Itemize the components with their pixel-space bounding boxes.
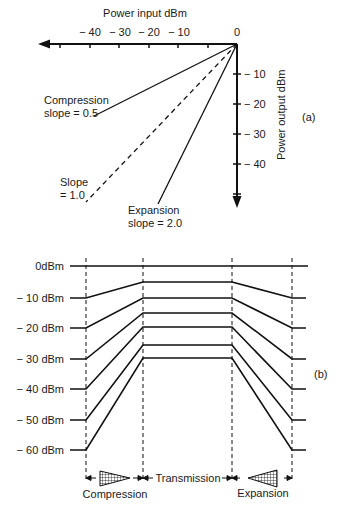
compression-stage-label: Compression	[83, 488, 148, 500]
compression-slope-label: slope = 0.5	[44, 107, 98, 119]
expansion-wedge-icon	[248, 470, 277, 487]
expansion-stage-label: Expansion	[237, 487, 288, 499]
x-axis-title: Power input dBm	[103, 7, 187, 19]
unity-slope-value: = 1.0	[60, 189, 85, 201]
unity-slope-line	[86, 44, 237, 202]
transmission-label: Transmission	[156, 472, 221, 484]
level-label: 0dBm	[35, 260, 64, 272]
stage-dividers	[86, 258, 292, 481]
unity-slope-label: Slope	[60, 176, 88, 188]
compression-label: Compression	[44, 94, 109, 106]
level-label: − 40 dBm	[17, 383, 64, 395]
expansion-label: Expansion	[128, 204, 179, 216]
expansion-line	[158, 44, 237, 204]
level-label: − 60 dBm	[17, 444, 64, 456]
level-label: − 50 dBm	[17, 414, 64, 426]
expansion-slope-label: slope = 2.0	[128, 217, 182, 229]
y-tick-label: − 10	[244, 68, 266, 80]
figure-b: 0dBm − 10 dBm − 20 dBm − 30 dBm − 40 dBm…	[17, 258, 328, 500]
arrow-down-icon	[233, 196, 242, 208]
arrow-left-icon	[38, 40, 50, 49]
y-tick-label: − 20	[244, 98, 266, 110]
panel-label-b: (b)	[314, 368, 327, 380]
figure-a: Power input dBm − 40 − 30 − 20 − 10 0 − …	[38, 7, 315, 229]
y-tick-label: − 40	[244, 158, 266, 170]
y-tick-label: − 30	[244, 128, 266, 140]
compression-wedge-icon	[100, 471, 130, 486]
level-label: − 30 dBm	[17, 353, 64, 365]
x-tick-label: − 20	[138, 26, 160, 38]
compression-line	[94, 44, 237, 116]
panel-label-a: (a)	[302, 111, 315, 123]
y-axis-title: Power output dBm	[275, 70, 287, 161]
level-trajectories	[70, 266, 308, 450]
level-label: − 10 dBm	[17, 292, 64, 304]
x-tick-label: − 30	[109, 26, 131, 38]
compander-diagram: Power input dBm − 40 − 30 − 20 − 10 0 − …	[0, 0, 349, 521]
level-label: − 20 dBm	[17, 322, 64, 334]
x-tick-label: − 40	[79, 26, 101, 38]
x-tick-label: − 10	[168, 26, 190, 38]
x-tick-label: 0	[234, 26, 240, 38]
